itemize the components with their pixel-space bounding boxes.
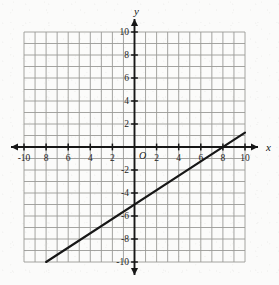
coordinate-plane-chart: -108642246810108642-2-4-6-8-10O xy	[0, 0, 279, 285]
y-tick-label: 6	[124, 73, 129, 83]
y-tick-label: -2	[121, 165, 129, 175]
x-tick-label: -10	[18, 153, 31, 163]
x-tick-label: 6	[66, 153, 71, 163]
x-axis-arrow-left	[11, 143, 18, 150]
graph-figure: -108642246810108642-2-4-6-8-10O xy	[0, 0, 279, 285]
x-axis-arrow-right	[251, 143, 258, 150]
y-tick-label: 2	[124, 119, 129, 129]
x-tick-label: 4	[176, 153, 181, 163]
y-axis-arrow-up	[131, 19, 138, 26]
x-tick-label: 2	[110, 153, 115, 163]
x-tick-label: 8	[221, 153, 226, 163]
x-tick-label: 8	[44, 153, 49, 163]
y-tick-label: 8	[124, 50, 129, 60]
y-tick-label: 10	[120, 27, 130, 37]
axes	[11, 19, 258, 275]
x-axis-label: x	[265, 141, 271, 153]
y-axis-label: y	[133, 5, 139, 17]
axis-name-labels: xy	[133, 5, 271, 153]
x-tick-label: 10	[240, 153, 250, 163]
y-tick-label: -4	[121, 188, 129, 198]
y-tick-label: -10	[116, 257, 129, 267]
origin-label: O	[139, 150, 146, 161]
y-tick-label: 4	[124, 96, 129, 106]
x-tick-label: 2	[154, 153, 159, 163]
y-axis-arrow-down	[131, 268, 138, 275]
y-tick-label: -8	[121, 234, 129, 244]
x-tick-label: 4	[88, 153, 93, 163]
